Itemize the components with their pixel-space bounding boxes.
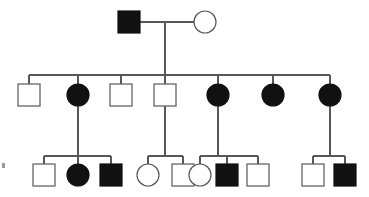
individual-symbols [18, 11, 356, 186]
individual-square-unaffected-II-3[interactable] [110, 84, 132, 106]
individual-circle-affected-II-6[interactable] [262, 84, 284, 106]
scan-speck [2, 163, 5, 168]
pedigree-canvas [0, 0, 369, 197]
pedigree-chart [0, 0, 369, 197]
individual-square-affected-III-3[interactable] [100, 164, 122, 186]
individual-square-unaffected-II-4[interactable] [154, 84, 176, 106]
individual-circle-affected-III-2[interactable] [67, 164, 89, 186]
individual-circle-affected-II-5[interactable] [207, 84, 229, 106]
individual-square-unaffected-III-9[interactable] [302, 164, 324, 186]
individual-square-affected-III-10[interactable] [334, 164, 356, 186]
individual-square-affected-I-1[interactable] [118, 11, 140, 33]
individual-circle-affected-II-7[interactable] [319, 84, 341, 106]
individual-circle-unaffected-III-6[interactable] [189, 164, 211, 186]
individual-square-affected-III-7[interactable] [216, 164, 238, 186]
individual-square-unaffected-III-1[interactable] [33, 164, 55, 186]
individual-square-unaffected-III-8[interactable] [247, 164, 269, 186]
individual-circle-unaffected-III-4[interactable] [137, 164, 159, 186]
individual-square-unaffected-II-1[interactable] [18, 84, 40, 106]
scan-artifacts [2, 163, 5, 168]
individual-circle-affected-II-2[interactable] [67, 84, 89, 106]
individual-circle-unaffected-I-2[interactable] [194, 11, 216, 33]
